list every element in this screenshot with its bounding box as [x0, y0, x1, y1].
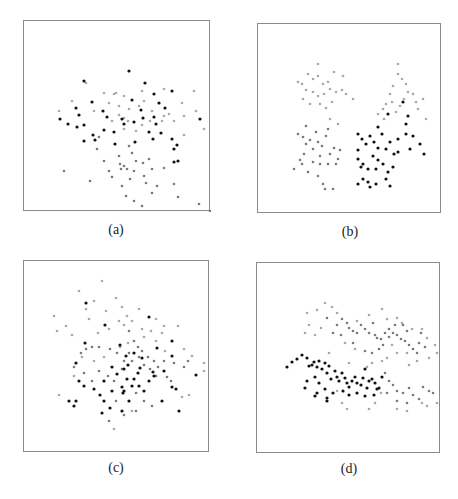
data-point	[168, 113, 171, 116]
data-point	[198, 117, 201, 120]
data-point	[337, 158, 340, 161]
data-point	[309, 103, 312, 106]
data-point	[135, 392, 138, 395]
data-point	[181, 396, 184, 399]
data-point	[363, 394, 366, 397]
data-point	[155, 346, 158, 349]
data-point	[382, 344, 385, 347]
data-point	[81, 356, 84, 359]
data-point	[384, 177, 387, 180]
data-point	[118, 114, 121, 117]
data-point	[310, 363, 313, 366]
data-point	[352, 342, 355, 345]
data-point	[118, 105, 121, 108]
data-point	[388, 336, 391, 339]
data-point	[108, 420, 111, 423]
data-point	[337, 123, 340, 126]
data-point	[123, 324, 126, 327]
data-point	[115, 400, 118, 403]
data-point	[129, 178, 132, 181]
data-point	[421, 402, 424, 405]
data-point	[138, 105, 141, 108]
data-point	[131, 360, 134, 363]
data-point	[125, 377, 128, 380]
data-point	[74, 106, 77, 109]
data-point	[319, 155, 322, 158]
data-point	[400, 338, 403, 341]
data-point	[391, 165, 394, 168]
data-point	[408, 344, 411, 347]
data-point	[401, 100, 404, 103]
data-point	[347, 385, 350, 388]
data-point	[316, 309, 319, 312]
data-point	[406, 352, 409, 355]
data-point	[151, 137, 154, 140]
data-point	[302, 98, 305, 101]
data-point	[354, 348, 357, 351]
data-point	[434, 344, 437, 347]
data-point	[331, 391, 334, 394]
data-point	[147, 356, 150, 359]
data-point	[360, 137, 363, 140]
data-point	[356, 132, 359, 135]
data-point	[132, 351, 135, 354]
data-point	[305, 379, 308, 382]
data-point	[368, 185, 371, 188]
data-point	[138, 356, 141, 359]
data-point	[131, 320, 134, 323]
data-point	[392, 384, 395, 387]
data-point	[183, 366, 186, 369]
data-point	[361, 162, 364, 165]
data-point	[174, 387, 177, 390]
data-point	[97, 332, 100, 335]
scatter-plot-a	[24, 21, 211, 212]
data-point	[122, 389, 125, 392]
data-point	[412, 348, 415, 351]
data-point	[355, 391, 358, 394]
data-point	[122, 367, 125, 370]
data-point	[380, 375, 383, 378]
data-point	[110, 389, 113, 392]
data-point	[128, 108, 131, 111]
data-point	[133, 340, 136, 343]
data-point	[304, 332, 307, 335]
plot-frame-b	[257, 23, 441, 213]
data-point	[326, 317, 329, 320]
data-point	[93, 138, 96, 141]
data-point	[75, 125, 78, 128]
data-point	[191, 355, 194, 358]
data-point	[386, 170, 389, 173]
data-point	[347, 393, 350, 396]
data-point	[348, 327, 351, 330]
data-point	[325, 399, 328, 402]
data-point	[425, 118, 428, 121]
data-point	[325, 135, 328, 138]
data-point	[366, 180, 369, 183]
data-point	[436, 352, 439, 355]
panel-label-d: (d)	[319, 461, 379, 477]
data-point	[401, 78, 404, 81]
data-point	[193, 90, 196, 93]
data-point	[317, 175, 320, 178]
data-point	[133, 140, 136, 143]
data-point	[98, 393, 101, 396]
data-point	[58, 110, 61, 113]
data-point	[403, 98, 406, 101]
data-point	[404, 340, 407, 343]
data-point	[374, 167, 377, 170]
data-point	[154, 122, 157, 125]
data-point	[331, 306, 334, 309]
data-point	[315, 391, 318, 394]
data-point	[123, 165, 126, 168]
data-point	[408, 387, 411, 390]
data-point	[352, 98, 355, 101]
data-point	[161, 120, 164, 123]
data-point	[142, 389, 145, 392]
data-point	[198, 203, 201, 206]
data-point	[118, 155, 121, 158]
data-point	[396, 400, 399, 403]
data-point	[77, 113, 80, 116]
data-point	[406, 402, 409, 405]
data-point	[90, 100, 93, 103]
data-point	[56, 330, 59, 333]
